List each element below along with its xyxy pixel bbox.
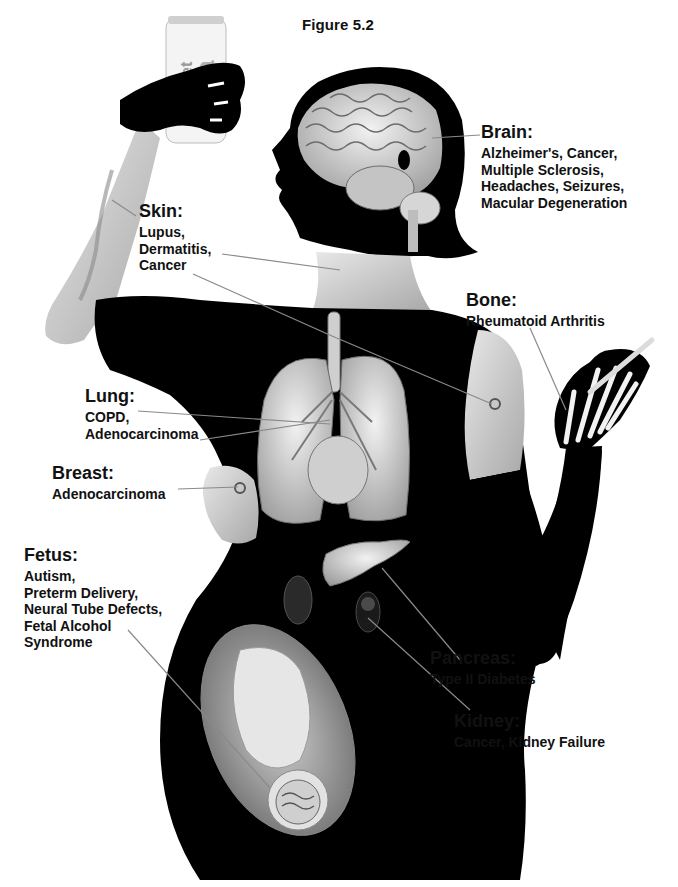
label-item: Cancer, Kidney Failure — [454, 734, 605, 751]
label-heading: Kidney: — [454, 711, 605, 732]
breast — [203, 466, 259, 544]
label-bone: Bone: Rheumatoid Arthritis — [466, 290, 605, 330]
label-heading: Pancreas: — [430, 648, 536, 669]
label-heading: Bone: — [466, 290, 605, 311]
label-lung: Lung: COPD, Adenocarcinoma — [85, 386, 199, 442]
label-item: Headaches, Seizures, — [481, 178, 627, 195]
label-item: Rheumatoid Arthritis — [466, 313, 605, 330]
kidney-left-icon — [284, 576, 312, 624]
label-breast: Breast: Adenocarcinoma — [52, 463, 166, 503]
label-heading: Breast: — [52, 463, 166, 484]
label-item: Preterm Delivery, — [24, 585, 162, 602]
label-heading: Brain: — [481, 122, 627, 143]
figure-title: Figure 5.2 — [302, 16, 374, 33]
label-item: Lupus, — [139, 224, 211, 241]
label-item: Dermatitis, — [139, 241, 211, 258]
label-heading: Lung: — [85, 386, 199, 407]
label-kidney: Kidney: Cancer, Kidney Failure — [454, 711, 605, 751]
label-item: Neural Tube Defects, — [24, 601, 162, 618]
label-heading: Fetus: — [24, 545, 162, 566]
label-skin: Skin: Lupus, Dermatitis, Cancer — [139, 201, 211, 274]
label-pancreas: Pancreas: Type II Diabetes — [430, 648, 536, 688]
label-item: Type II Diabetes — [430, 671, 536, 688]
shoulder-skin — [465, 330, 525, 480]
label-item: Alzheimer's, Cancer, — [481, 145, 627, 162]
neck-skin — [312, 252, 432, 312]
right-forearm — [540, 446, 602, 660]
label-item: Multiple Sclerosis, — [481, 162, 627, 179]
skeletal-hand-icon — [554, 340, 652, 452]
label-item: Syndrome — [24, 634, 162, 651]
label-item: Macular Degeneration — [481, 195, 627, 212]
label-item: Fetal Alcohol — [24, 618, 162, 635]
label-brain: Brain: Alzheimer's, Cancer, Multiple Scl… — [481, 122, 627, 211]
label-fetus: Fetus: Autism, Preterm Delivery, Neural … — [24, 545, 162, 651]
label-heading: Skin: — [139, 201, 211, 222]
label-item: Adenocarcinoma — [52, 486, 166, 503]
label-item: Autism, — [24, 568, 162, 585]
label-item: COPD, — [85, 409, 199, 426]
gloved-hand — [120, 63, 245, 134]
label-item: Adenocarcinoma — [85, 426, 199, 443]
body-disease-figure: Diet la — [0, 0, 678, 887]
label-item: Cancer — [139, 257, 211, 274]
